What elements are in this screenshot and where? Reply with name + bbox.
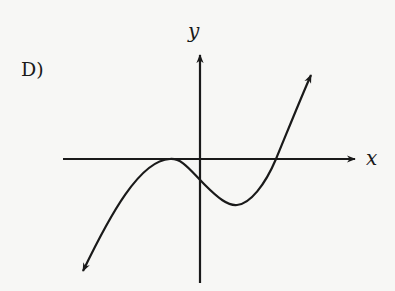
graph: x y: [0, 0, 395, 291]
x-axis-label: x: [366, 146, 377, 170]
y-axis-label: y: [187, 19, 200, 43]
curve: [83, 75, 311, 271]
